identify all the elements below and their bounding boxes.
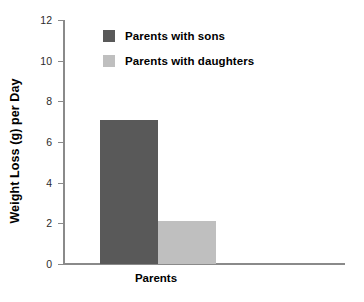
y-tick-label: 6 [12, 136, 52, 148]
y-tick-label: 8 [12, 95, 52, 107]
y-tick-label: 4 [12, 177, 52, 189]
legend-label: Parents with daughters [125, 55, 254, 67]
y-tick-label: 2 [12, 217, 52, 229]
chart-legend: Parents with sonsParents with daughters [103, 30, 254, 67]
y-tick-label: 10 [12, 55, 52, 67]
bar-sons [100, 120, 158, 264]
y-tick-label: 0 [12, 258, 52, 270]
bar-daughters [158, 221, 216, 264]
legend-swatch-icon [103, 30, 115, 42]
legend-item: Parents with daughters [103, 55, 254, 67]
y-tick-mark [58, 264, 63, 265]
x-axis-label: Parents [100, 272, 212, 284]
legend-swatch-icon [103, 55, 115, 67]
bar-chart: Weight Loss (g) per Day 121086420 Parent… [0, 0, 364, 302]
legend-item: Parents with sons [103, 30, 254, 42]
y-tick-label: 12 [12, 14, 52, 26]
legend-label: Parents with sons [125, 30, 225, 42]
y-axis-title: Weight Loss (g) per Day [0, 0, 30, 302]
